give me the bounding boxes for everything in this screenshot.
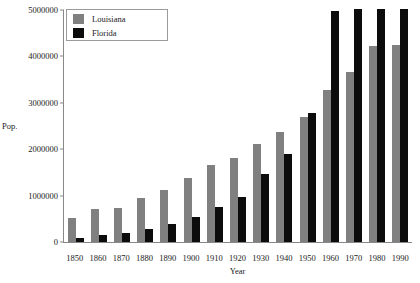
bar-louisiana-1850 (68, 218, 76, 242)
bar-group (203, 10, 226, 242)
bar-florida-1900 (192, 217, 200, 242)
bar-florida-1990 (400, 9, 408, 242)
bar-group (342, 10, 365, 242)
x-tick-label: 1970 (342, 244, 365, 266)
bar-group (180, 10, 203, 242)
legend-item-florida: Florida (71, 26, 163, 40)
x-axis-label: Year (63, 266, 412, 276)
bar-group (389, 10, 412, 242)
bar-louisiana-1890 (160, 190, 168, 242)
x-tick-label: 1880 (133, 244, 156, 266)
bar-florida-1850 (76, 238, 84, 242)
bar-louisiana-1880 (137, 198, 145, 242)
x-tick-label: 1980 (365, 244, 388, 266)
bar-group (157, 10, 180, 242)
bar-florida-1970 (354, 9, 362, 242)
bar-florida-1940 (284, 154, 292, 242)
legend-swatch-louisiana (73, 14, 84, 24)
bar-louisiana-1980 (369, 46, 377, 242)
plot-area: 010000002000000300000040000005000000 (63, 10, 412, 243)
bar-group (87, 10, 110, 242)
bar-louisiana-1860 (91, 209, 99, 242)
bar-louisiana-1930 (253, 144, 261, 242)
bar-florida-1960 (331, 11, 339, 242)
x-tick-label: 1940 (272, 244, 295, 266)
bar-group (319, 10, 342, 242)
bar-group (64, 10, 87, 242)
bar-florida-1870 (122, 233, 130, 242)
bar-florida-1980 (377, 9, 385, 242)
legend-swatch-florida (73, 28, 84, 38)
legend-item-louisiana: Louisiana (71, 12, 163, 26)
x-tick-label: 1910 (203, 244, 226, 266)
population-bar-chart: Pop. 01000000200000030000004000000500000… (0, 0, 420, 283)
y-tick-label: 4000000 (28, 51, 64, 61)
bar-group (134, 10, 157, 242)
x-tick-label: 1950 (296, 244, 319, 266)
x-tick-label: 1990 (389, 244, 412, 266)
x-tick-label: 1960 (319, 244, 342, 266)
legend-label-louisiana: Louisiana (92, 14, 126, 24)
y-tick-label: 2000000 (28, 144, 64, 154)
x-tick-label: 1920 (226, 244, 249, 266)
bar-louisiana-1950 (300, 117, 308, 242)
x-tick-label: 1850 (63, 244, 86, 266)
legend-label-florida: Florida (92, 28, 117, 38)
bar-florida-1890 (168, 224, 176, 242)
y-tick-label: 5000000 (28, 5, 64, 15)
bar-florida-1950 (308, 113, 316, 242)
bar-louisiana-1920 (230, 158, 238, 242)
chart-legend: Louisiana Florida (66, 9, 168, 41)
y-tick-label: 3000000 (28, 98, 64, 108)
x-tick-label: 1860 (86, 244, 109, 266)
bar-groups (64, 10, 412, 242)
bar-group (110, 10, 133, 242)
bar-louisiana-1910 (207, 165, 215, 242)
bar-group (250, 10, 273, 242)
x-axis-ticks: 1850186018701880189019001910192019301940… (63, 244, 412, 266)
bar-group (366, 10, 389, 242)
bar-group (296, 10, 319, 242)
bar-florida-1920 (238, 197, 246, 242)
bar-louisiana-1940 (276, 132, 284, 242)
bar-louisiana-1990 (392, 45, 400, 242)
x-tick-label: 1870 (110, 244, 133, 266)
bar-group (273, 10, 296, 242)
bar-louisiana-1970 (346, 72, 354, 242)
bar-florida-1880 (145, 229, 153, 242)
y-axis-label: Pop. (2, 121, 17, 131)
bar-louisiana-1870 (114, 208, 122, 242)
x-tick-label: 1890 (156, 244, 179, 266)
bar-louisiana-1960 (323, 90, 331, 242)
y-tick-label: 1000000 (28, 191, 64, 201)
bar-florida-1860 (99, 235, 107, 242)
bar-group (226, 10, 249, 242)
bar-florida-1910 (215, 207, 223, 242)
x-tick-label: 1900 (179, 244, 202, 266)
x-tick-label: 1930 (249, 244, 272, 266)
bar-florida-1930 (261, 174, 269, 242)
bar-louisiana-1900 (184, 178, 192, 242)
